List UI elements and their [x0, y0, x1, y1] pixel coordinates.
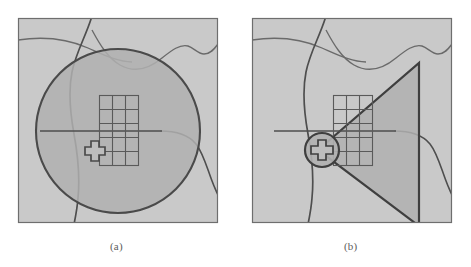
panel-b-caption: (b): [344, 240, 357, 252]
panel-a-caption: (a): [110, 240, 123, 252]
figure-two-panel-spatial-query: [0, 0, 471, 267]
panel-b: [252, 16, 456, 234]
panel-a: [18, 16, 222, 234]
